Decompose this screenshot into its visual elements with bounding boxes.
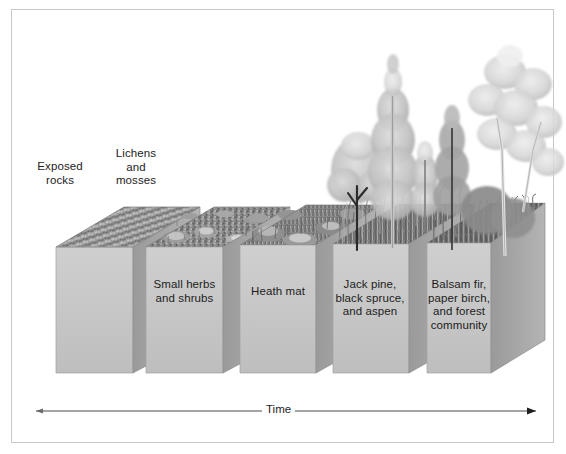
figure-frame [11, 9, 554, 443]
stage-label-lichens-mosses: Lichens and mosses [98, 147, 174, 188]
stage-label-small-herbs-shrubs: Small herbs and shrubs [146, 278, 223, 305]
stage-label-heath-mat: Heath mat [240, 285, 316, 299]
stage-label-jack-pine: Jack pine, black spruce, and aspen [331, 278, 409, 319]
succession-diagram: Exposed rocks Lichens and mosses Small h… [0, 0, 566, 454]
stage-label-balsam-fir: Balsam fir, paper birch, and forest comm… [426, 278, 492, 332]
time-axis-label: Time [262, 403, 295, 415]
stage-label-exposed-rocks: Exposed rocks [22, 160, 98, 187]
